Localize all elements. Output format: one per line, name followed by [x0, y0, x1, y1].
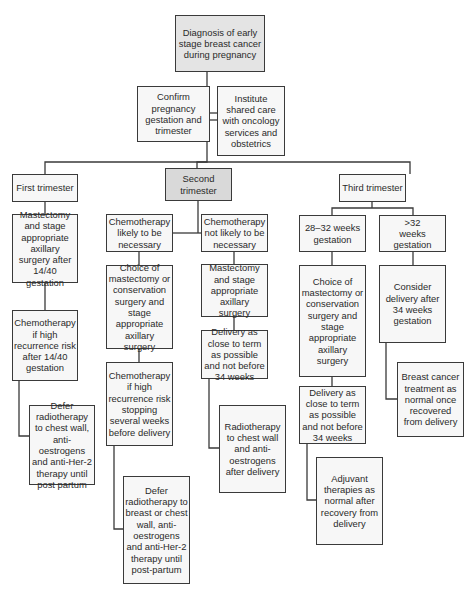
node-second-radiotherapy: Radiotherapy to chest wall and anti-oest…: [219, 405, 286, 493]
node-shared-care: Institute shared care with oncology serv…: [217, 86, 285, 156]
node-first-chemo: Chemotherapy if high recurrence risk aft…: [12, 310, 78, 381]
node-weeks-28-32: 28–32 weeks gestation: [299, 215, 366, 252]
node-first-surgery-text: Mastectomy and stage appropriate axillar…: [14, 209, 76, 288]
node-second-trimester-text: Second trimester: [167, 173, 230, 196]
node-chemo-not-likely: Chemotherapy not likely to be necessary: [201, 214, 268, 252]
node-third-delivery: Delivery as close to term as possible an…: [299, 386, 366, 444]
node-second-delivery-text: Delivery as close to term as possible an…: [203, 326, 266, 382]
edge-to-second: [197, 156, 207, 168]
node-consider-delivery: Consider delivery after 34 weeks gestati…: [379, 265, 446, 343]
edge-consider-to-treatment: [386, 342, 397, 399]
node-second-trimester: Second trimester: [165, 168, 232, 201]
node-first-defer-text: Defer radiotherapy to chest wall, anti-o…: [31, 400, 93, 490]
node-treatment-normal: Breast cancer treatment as normal once r…: [397, 362, 464, 437]
node-second-choice-text: Choice of mastectomy or conservation sur…: [108, 262, 171, 352]
node-confirm-pregnancy: Confirm pregnancy gestation and trimeste…: [137, 86, 210, 142]
node-weeks-over-32-text: >32 weeks gestation: [381, 217, 444, 251]
node-third-choice: Choice of mastectomy or conservation sur…: [299, 265, 366, 377]
node-chemo-not-likely-text: Chemotherapy not likely to be necessary: [203, 216, 266, 250]
node-second-surgery: Mastectomy and stage appropriate axillar…: [201, 264, 268, 317]
node-third-trimester: Third trimester: [339, 174, 406, 202]
node-weeks-28-32-text: 28–32 weeks gestation: [301, 222, 364, 245]
node-first-chemo-text: Chemotherapy if high recurrence risk aft…: [14, 317, 76, 373]
node-chemo-likely-text: Chemotherapy likely to be necessary: [108, 216, 171, 250]
node-second-delivery: Delivery as close to term as possible an…: [201, 330, 268, 379]
node-second-choice: Choice of mastectomy or conservation sur…: [106, 265, 173, 349]
node-chemo-likely: Chemotherapy likely to be necessary: [106, 214, 173, 252]
node-diagnosis-text: Diagnosis of early stage breast cancer d…: [177, 27, 263, 61]
edge-third-split: [332, 208, 413, 215]
node-weeks-over-32: >32 weeks gestation: [379, 215, 446, 252]
edge-chemo-to-defer: [114, 445, 123, 529]
node-second-chemo: Chemotherapy if high recurrence risk sto…: [106, 362, 173, 446]
node-second-defer: Defer radiotherapy to breast or chest wa…: [123, 476, 190, 584]
node-second-surgery-text: Mastectomy and stage appropriate axillar…: [203, 262, 266, 318]
node-first-defer: Defer radiotherapy to chest wall, anti-o…: [29, 405, 95, 485]
node-first-trimester: First trimester: [12, 174, 78, 202]
edge-first-chemo-to-defer: [19, 380, 29, 436]
node-third-adjuvant: Adjuvant therapies as normal after recov…: [316, 457, 383, 545]
node-second-radiotherapy-text: Radiotherapy to chest wall and anti-oest…: [221, 421, 284, 477]
node-third-trimester-text: Third trimester: [342, 182, 402, 193]
node-second-defer-text: Defer radiotherapy to breast or chest wa…: [125, 485, 188, 575]
node-third-adjuvant-text: Adjuvant therapies as normal after recov…: [318, 473, 381, 529]
node-first-surgery: Mastectomy and stage appropriate axillar…: [12, 214, 78, 283]
node-third-choice-text: Choice of mastectomy or conservation sur…: [301, 276, 364, 366]
node-second-chemo-text: Chemotherapy if high recurrence risk sto…: [108, 370, 171, 438]
node-shared-care-text: Institute shared care with oncology serv…: [219, 93, 283, 149]
treatment-flowchart: Diagnosis of early stage breast cancer d…: [0, 0, 470, 590]
node-diagnosis: Diagnosis of early stage breast cancer d…: [175, 15, 265, 72]
node-first-trimester-text: First trimester: [16, 182, 73, 193]
node-confirm-pregnancy-text: Confirm pregnancy gestation and trimeste…: [139, 91, 208, 136]
node-consider-delivery-text: Consider delivery after 34 weeks gestati…: [381, 281, 444, 326]
edge-delivery-to-adjuvant: [307, 443, 316, 500]
edge-delivery-to-radio: [209, 378, 219, 448]
node-treatment-normal-text: Breast cancer treatment as normal once r…: [399, 371, 462, 427]
node-third-delivery-text: Delivery as close to term as possible an…: [301, 387, 364, 443]
